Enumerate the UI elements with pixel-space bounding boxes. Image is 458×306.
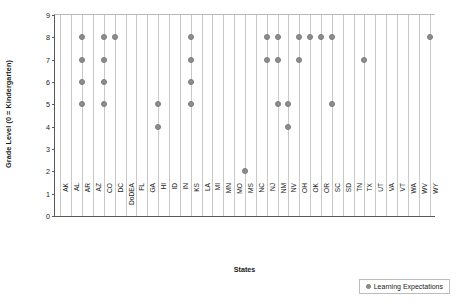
y-axis-tick xyxy=(52,216,55,217)
x-axis-tick-label: MI xyxy=(214,183,221,219)
y-axis-tick-label: 6 xyxy=(46,78,50,87)
data-point xyxy=(188,101,194,107)
x-gridline xyxy=(180,15,181,216)
x-axis-tick-label: NJ xyxy=(269,183,276,219)
x-gridline xyxy=(343,15,344,216)
x-axis-tick-label: WY xyxy=(432,183,439,219)
x-axis-tick-label: IN xyxy=(182,183,189,219)
x-axis-tick-label: MN xyxy=(225,183,232,219)
y-axis-title: Grade Level (0 = Kindergarten) xyxy=(2,14,16,214)
x-axis-title: States xyxy=(54,265,435,274)
data-point xyxy=(275,101,281,107)
y-axis-tick-label: 2 xyxy=(46,167,50,176)
x-axis-tick-label: CO xyxy=(106,183,113,219)
data-point xyxy=(318,34,324,40)
data-point xyxy=(112,34,118,40)
y-axis-tick xyxy=(52,60,55,61)
data-point xyxy=(361,57,367,63)
y-axis-tick xyxy=(52,194,55,195)
x-gridline xyxy=(256,15,257,216)
y-axis-tick-label: 5 xyxy=(46,100,50,109)
data-point xyxy=(155,101,161,107)
chart-legend: Learning Expectations xyxy=(359,279,450,294)
data-point xyxy=(79,101,85,107)
x-axis-tick-label: ID xyxy=(171,183,178,219)
data-point xyxy=(79,34,85,40)
data-point xyxy=(264,57,270,63)
data-point xyxy=(275,57,281,63)
x-axis-tick-label: OR xyxy=(323,183,330,219)
data-point xyxy=(188,57,194,63)
x-axis-tick-label: MS xyxy=(247,183,254,219)
y-axis-tick-label: 4 xyxy=(46,122,50,131)
y-axis-tick-label: 7 xyxy=(46,55,50,64)
x-axis-tick-label: OH xyxy=(301,183,308,219)
data-point xyxy=(275,34,281,40)
x-gridline xyxy=(234,15,235,216)
x-gridline xyxy=(202,15,203,216)
data-point xyxy=(329,34,335,40)
data-point xyxy=(155,124,161,130)
data-point xyxy=(427,34,433,40)
y-axis-tick xyxy=(52,104,55,105)
x-axis-tick-label: SD xyxy=(345,183,352,219)
data-point xyxy=(188,79,194,85)
x-axis-tick-label: LA xyxy=(204,183,211,219)
y-axis-tick-label: 8 xyxy=(46,33,50,42)
data-point xyxy=(329,101,335,107)
x-gridline xyxy=(104,15,105,216)
x-gridline xyxy=(332,15,333,216)
scatter-chart: Grade Level (0 = Kindergarten) 012345678… xyxy=(0,0,458,306)
x-axis-tick-label: NM xyxy=(280,183,287,219)
data-point xyxy=(296,57,302,63)
y-axis-tick-label: 0 xyxy=(46,212,50,221)
data-point xyxy=(307,34,313,40)
x-axis-tick-label: DoDEA xyxy=(128,183,135,219)
data-point xyxy=(101,79,107,85)
x-gridline xyxy=(278,15,279,216)
y-axis-tick-label: 9 xyxy=(46,11,50,20)
x-axis-tick-label: MO xyxy=(236,183,243,219)
x-axis-tick-label: HI xyxy=(160,183,167,219)
x-gridline xyxy=(430,15,431,216)
x-gridline xyxy=(419,15,420,216)
x-axis-tick-label: AZ xyxy=(95,183,102,219)
y-axis-tick-label: 3 xyxy=(46,145,50,154)
x-axis-tick-label: DC xyxy=(117,183,124,219)
data-point xyxy=(264,34,270,40)
x-gridline xyxy=(169,15,170,216)
x-axis-tick-label: WA xyxy=(410,183,417,219)
x-gridline xyxy=(354,15,355,216)
x-gridline xyxy=(93,15,94,216)
y-axis-tick xyxy=(52,149,55,150)
legend-marker-icon xyxy=(366,284,371,289)
data-point xyxy=(101,101,107,107)
plot-area: 0123456789AKALARAZCODCDoDEAFLGAHIIDINKSL… xyxy=(54,14,435,217)
x-axis-tick-label: AR xyxy=(84,183,91,219)
x-gridline xyxy=(397,15,398,216)
x-axis-tick-label: TX xyxy=(366,183,373,219)
x-gridline xyxy=(82,15,83,216)
x-gridline xyxy=(115,15,116,216)
x-gridline xyxy=(321,15,322,216)
y-axis-tick-label: 1 xyxy=(46,189,50,198)
data-point xyxy=(101,34,107,40)
data-point xyxy=(285,124,291,130)
data-point xyxy=(242,168,248,174)
x-axis-tick-label: KS xyxy=(193,183,200,219)
data-point xyxy=(79,79,85,85)
x-axis-tick-label: OK xyxy=(312,183,319,219)
x-gridline xyxy=(310,15,311,216)
data-point xyxy=(101,57,107,63)
x-gridline xyxy=(245,15,246,216)
x-gridline xyxy=(158,15,159,216)
y-axis-tick xyxy=(52,82,55,83)
x-gridline xyxy=(408,15,409,216)
x-axis-tick-label: SC xyxy=(334,183,341,219)
x-gridline xyxy=(267,15,268,216)
data-point xyxy=(285,101,291,107)
legend-label: Learning Expectations xyxy=(374,283,443,290)
y-axis-tick xyxy=(52,37,55,38)
data-point xyxy=(188,34,194,40)
y-axis-tick xyxy=(52,171,55,172)
